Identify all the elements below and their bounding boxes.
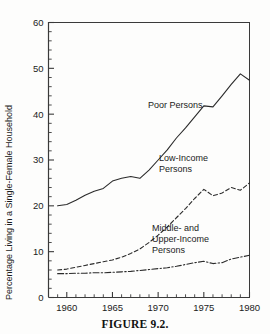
y-axis-tick-labels: 0102030405060 bbox=[33, 17, 44, 303]
y-axis-ticks bbox=[49, 23, 55, 298]
y-tick-label: 10 bbox=[33, 246, 44, 257]
series-annotation-middle-upper-income-persons: Middle- and Upper-Income Persons bbox=[152, 223, 209, 255]
y-axis-title: Percentage Living in a Single-Female Hou… bbox=[4, 105, 14, 300]
x-tick-label: 1960 bbox=[56, 302, 77, 313]
x-tick-label: 1980 bbox=[239, 302, 260, 313]
y-tick-label: 40 bbox=[33, 109, 44, 120]
figure-caption: FIGURE 9.2. bbox=[101, 318, 168, 330]
series-label-poor-persons-line-1: Poor Persons bbox=[148, 100, 203, 110]
x-tick-label: 1970 bbox=[148, 302, 169, 313]
x-axis-tick-labels: 19601965197019751980 bbox=[56, 302, 260, 313]
plot-frame bbox=[49, 22, 251, 298]
line-chart: 0102030405060 19601965197019751980 Perce… bbox=[0, 0, 270, 334]
series-label-middle-upper-line-3: Persons bbox=[152, 245, 186, 255]
series-annotation-low-income-persons: Low-Income Persons bbox=[159, 153, 208, 174]
x-tick-label: 1975 bbox=[193, 302, 214, 313]
series-label-low-income-persons-line-1: Low-Income bbox=[159, 153, 208, 163]
y-tick-label: 30 bbox=[33, 154, 44, 165]
figure-container: 0102030405060 19601965197019751980 Perce… bbox=[0, 0, 270, 334]
series-label-middle-upper-line-2: Upper-Income bbox=[152, 234, 209, 244]
series-label-low-income-persons-line-2: Persons bbox=[159, 164, 193, 174]
series-line-middle-and-upper-income-persons bbox=[58, 255, 250, 273]
x-axis-ticks bbox=[58, 292, 250, 298]
y-tick-label: 60 bbox=[33, 17, 44, 28]
y-tick-label: 0 bbox=[38, 292, 43, 303]
y-tick-label: 50 bbox=[33, 63, 44, 74]
x-tick-label: 1965 bbox=[102, 302, 123, 313]
y-tick-label: 20 bbox=[33, 200, 44, 211]
series-line-poor-persons bbox=[58, 74, 250, 206]
series-label-middle-upper-line-1: Middle- and bbox=[152, 223, 199, 233]
series-annotation-poor-persons: Poor Persons bbox=[148, 100, 203, 110]
